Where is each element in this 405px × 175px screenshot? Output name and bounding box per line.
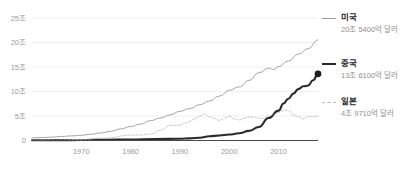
y-tick-label: 15조 bbox=[11, 63, 26, 72]
legend-label-china: 중국 bbox=[341, 58, 405, 69]
y-tick-label: 10조 bbox=[11, 87, 26, 96]
endpoint-dot-중국 bbox=[315, 70, 322, 77]
y-tick-label: 5조 bbox=[15, 112, 26, 121]
legend-value-us: 20조 5400억 달러 bbox=[341, 24, 405, 35]
legend-item-us[interactable]: 미국 20조 5400억 달러 bbox=[322, 12, 405, 35]
legend-label-us: 미국 bbox=[341, 12, 405, 23]
x-tick-label: 1990 bbox=[172, 147, 189, 156]
y-tick-label: 0 bbox=[22, 136, 26, 145]
legend-swatch-us-line-icon bbox=[322, 18, 336, 22]
x-tick-label: 1970 bbox=[73, 147, 90, 156]
legend-swatch-china-line-icon bbox=[322, 63, 336, 68]
y-tick-label: 25조 bbox=[11, 14, 26, 23]
y-gridlines bbox=[32, 18, 318, 116]
legend-value-china: 13조 6100억 달러 bbox=[341, 70, 405, 81]
series-endpoint-markers bbox=[315, 70, 322, 77]
data-series-group bbox=[32, 40, 318, 140]
x-tick-label: 1980 bbox=[122, 147, 139, 156]
x-axis-tick-labels: 19701980199020002010 bbox=[73, 147, 287, 156]
x-tick-label: 2000 bbox=[221, 147, 238, 156]
legend-label-japan: 일본 bbox=[341, 96, 405, 107]
legend-swatch-japan-line-icon bbox=[322, 102, 336, 106]
chart-legend: 미국 20조 5400억 달러 중국 13조 6100억 달러 일본 4조 97… bbox=[322, 0, 405, 175]
y-tick-label: 20조 bbox=[11, 38, 26, 47]
legend-item-japan[interactable]: 일본 4조 9710억 달러 bbox=[322, 96, 405, 119]
series-line-중국 bbox=[32, 74, 318, 140]
line-chart: 05조10조15조20조25조 19701980199020002010 미국 … bbox=[0, 0, 405, 175]
legend-value-japan: 4조 9710억 달러 bbox=[341, 108, 405, 119]
series-line-미국 bbox=[32, 40, 318, 138]
legend-item-china[interactable]: 중국 13조 6100억 달러 bbox=[322, 58, 405, 81]
y-axis-tick-labels: 05조10조15조20조25조 bbox=[11, 14, 26, 146]
x-tick-label: 2010 bbox=[270, 147, 287, 156]
